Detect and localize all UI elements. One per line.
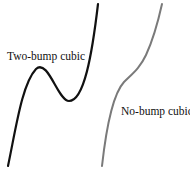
cubic-curves-figure	[0, 0, 190, 169]
no-bump-cubic-label: No-bump cubic	[121, 106, 190, 118]
no-bump-cubic-curve	[102, 4, 162, 166]
two-bump-cubic-label: Two-bump cubic	[7, 51, 85, 63]
two-bump-cubic-curve	[8, 4, 98, 166]
